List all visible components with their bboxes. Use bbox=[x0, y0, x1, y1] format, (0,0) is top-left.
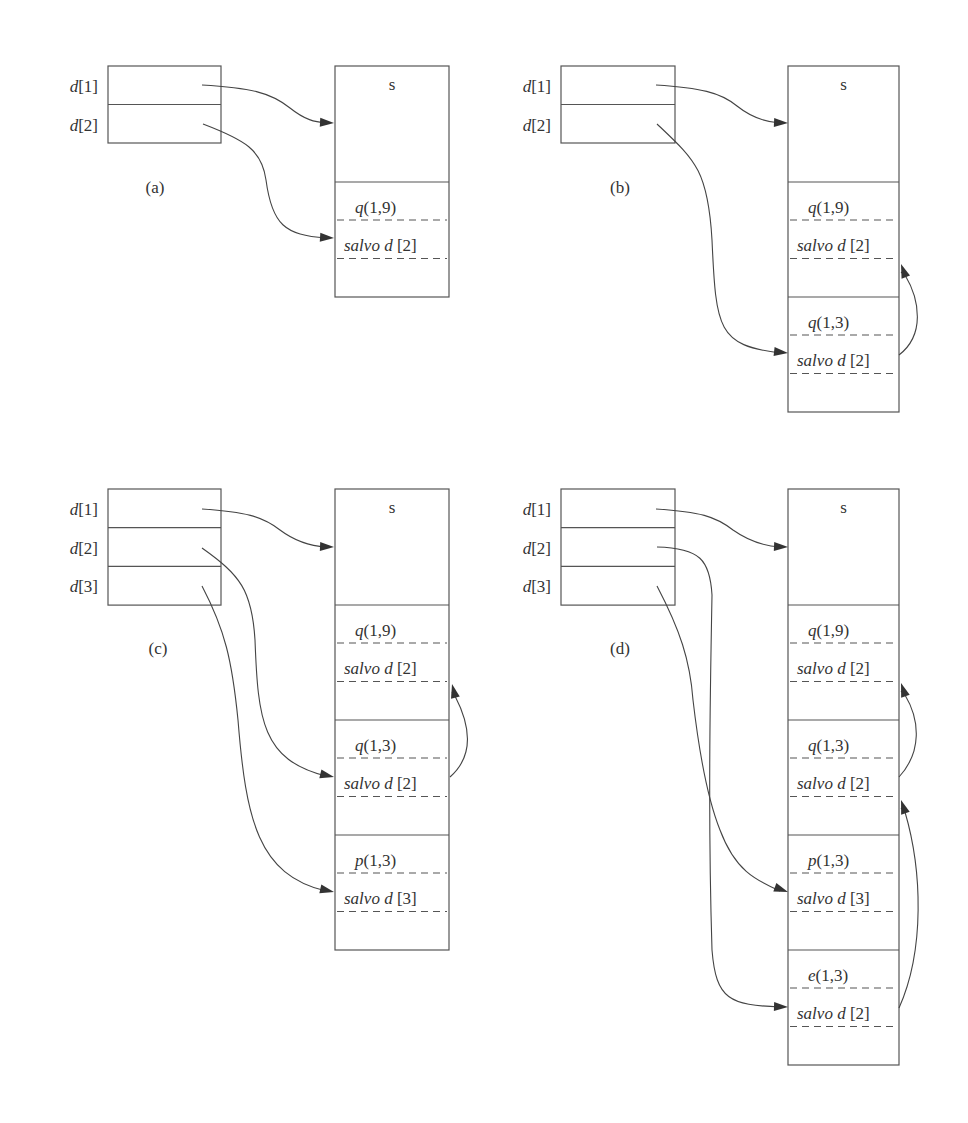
panel-caption: (b) bbox=[610, 178, 630, 197]
frame-name: e(1,3) bbox=[808, 966, 848, 985]
frame-name: q(1,3) bbox=[808, 313, 849, 332]
arrowhead-icon bbox=[901, 800, 910, 815]
register-array-d: d[1]d[2]d[3] bbox=[523, 489, 675, 605]
register-label: d[1] bbox=[523, 77, 551, 96]
panel-caption: (d) bbox=[610, 639, 630, 658]
panel-b: d[1]d[2](b)sq(1,9)salvo d [2]q(1,3)salvo… bbox=[523, 66, 918, 412]
pointer-arrow bbox=[657, 547, 780, 1007]
runtime-stack: sq(1,9)salvo d [2]q(1,3)salvo d [2]p(1,3… bbox=[788, 489, 899, 1065]
register-label: d[1] bbox=[70, 500, 98, 519]
activation-stack-diagram: d[1]d[2](a)sq(1,9)salvo d [2]d[1]d[2](b)… bbox=[0, 0, 968, 1123]
frame-name: q(1,3) bbox=[808, 736, 849, 755]
register-array-d: d[1]d[2]d[3] bbox=[70, 489, 221, 605]
arrowhead-icon bbox=[320, 542, 334, 551]
register-label: d[2] bbox=[523, 116, 551, 135]
runtime-stack: sq(1,9)salvo d [2] bbox=[335, 66, 449, 297]
saved-link-arrow bbox=[899, 808, 918, 1008]
stack-top-label: s bbox=[840, 75, 847, 94]
frame-name: q(1,3) bbox=[355, 736, 396, 755]
saved-display-field: salvo d [2] bbox=[797, 659, 870, 678]
frame-name: p(1,3) bbox=[807, 851, 849, 870]
saved-display-field: salvo d [2] bbox=[344, 236, 417, 255]
register-box bbox=[108, 489, 221, 605]
runtime-stack: sq(1,9)salvo d [2]q(1,3)salvo d [2] bbox=[788, 66, 899, 412]
saved-display-field: salvo d [3] bbox=[797, 889, 870, 908]
saved-link-arrow bbox=[899, 691, 916, 777]
arrowhead-icon bbox=[774, 1002, 788, 1011]
saved-display-field: salvo d [2] bbox=[344, 659, 417, 678]
saved-display-field: salvo d [2] bbox=[797, 236, 870, 255]
arrowhead-icon bbox=[774, 542, 788, 551]
pointer-arrow bbox=[657, 586, 780, 891]
arrowhead-icon bbox=[901, 264, 910, 279]
stack-top-label: s bbox=[389, 75, 396, 94]
panel-a: d[1]d[2](a)sq(1,9)salvo d [2] bbox=[70, 66, 449, 297]
arrowhead-icon bbox=[320, 233, 334, 242]
frame-name: q(1,9) bbox=[355, 198, 396, 217]
arrowhead-icon bbox=[320, 118, 334, 127]
saved-display-field: salvo d [2] bbox=[797, 351, 870, 370]
arrowhead-icon bbox=[901, 683, 910, 698]
register-label: d[3] bbox=[70, 577, 98, 596]
saved-link-arrow bbox=[899, 272, 917, 355]
saved-display-field: salvo d [3] bbox=[344, 889, 417, 908]
pointer-arrow bbox=[202, 586, 326, 891]
stack-top-label: s bbox=[840, 498, 847, 517]
panel-c: d[1]d[2]d[3](c)sq(1,9)salvo d [2]q(1,3)s… bbox=[70, 489, 468, 950]
register-array-d: d[1]d[2] bbox=[70, 66, 221, 143]
saved-display-field: salvo d [2] bbox=[797, 774, 870, 793]
stack-top-label: s bbox=[389, 498, 396, 517]
arrowhead-icon bbox=[773, 883, 788, 892]
saved-display-field: salvo d [2] bbox=[797, 1004, 870, 1023]
register-label: d[2] bbox=[70, 539, 98, 558]
register-label: d[1] bbox=[70, 77, 98, 96]
pointer-arrow bbox=[657, 124, 780, 353]
panel-caption: (c) bbox=[149, 639, 168, 658]
arrowhead-icon bbox=[774, 347, 788, 356]
register-label: d[3] bbox=[523, 577, 551, 596]
arrowhead-icon bbox=[451, 684, 460, 699]
saved-display-field: salvo d [2] bbox=[344, 774, 417, 793]
frame-name: p(1,3) bbox=[354, 851, 396, 870]
panel-caption: (a) bbox=[146, 178, 165, 197]
register-array-d: d[1]d[2] bbox=[523, 66, 675, 143]
arrowhead-icon bbox=[319, 769, 334, 778]
saved-link-arrow bbox=[450, 692, 468, 777]
frame-name: q(1,9) bbox=[355, 621, 396, 640]
frame-name: q(1,9) bbox=[808, 198, 849, 217]
arrowhead-icon bbox=[774, 118, 788, 127]
register-label: d[2] bbox=[523, 539, 551, 558]
runtime-stack: sq(1,9)salvo d [2]q(1,3)salvo d [2]p(1,3… bbox=[335, 489, 449, 950]
frame-name: q(1,9) bbox=[808, 621, 849, 640]
panel-d: d[1]d[2]d[3](d)sq(1,9)salvo d [2]q(1,3)s… bbox=[523, 489, 918, 1065]
arrowhead-icon bbox=[319, 885, 334, 894]
register-label: d[2] bbox=[70, 116, 98, 135]
register-label: d[1] bbox=[523, 500, 551, 519]
